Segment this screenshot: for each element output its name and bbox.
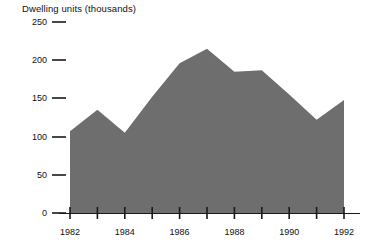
dwelling-units-area-chart: Dwelling units (thousands) 250 200 150 1…: [0, 0, 389, 249]
y-tick-label-250: 250: [32, 17, 47, 27]
y-tick-label-0: 0: [42, 208, 47, 218]
x-tick-label-1990: 1990: [279, 227, 299, 237]
y-tick-label-200: 200: [32, 55, 47, 65]
y-axis-labels: 250 200 150 100 50 0: [32, 17, 47, 218]
y-tick-label-100: 100: [32, 132, 47, 142]
x-tick-label-1982: 1982: [60, 227, 80, 237]
chart-plot-area: 250 200 150 100 50 0 1982 1: [0, 0, 389, 249]
x-axis-labels: 1982 1984 1986 1988 1990 1992: [60, 227, 354, 237]
y-axis-ticks: [52, 22, 66, 213]
area-series-dwelling-units: [70, 49, 344, 213]
y-tick-label-50: 50: [37, 170, 47, 180]
x-tick-label-1992: 1992: [334, 227, 354, 237]
y-tick-label-150: 150: [32, 93, 47, 103]
x-tick-label-1986: 1986: [170, 227, 190, 237]
x-tick-label-1984: 1984: [115, 227, 135, 237]
x-tick-label-1988: 1988: [224, 227, 244, 237]
